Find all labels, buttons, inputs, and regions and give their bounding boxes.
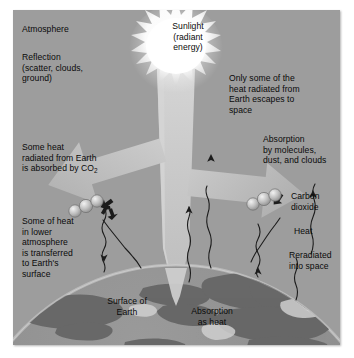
diagram-panel: Atmosphere Reflection (scatter, clouds, … <box>13 10 340 345</box>
absorption-arrow-right <box>186 154 307 222</box>
reflection-arrow-left <box>39 119 172 215</box>
sun-starburst-icon <box>129 10 223 98</box>
greenhouse-effect-diagram: Atmosphere Reflection (scatter, clouds, … <box>0 0 354 358</box>
diagram-artwork <box>13 10 340 345</box>
